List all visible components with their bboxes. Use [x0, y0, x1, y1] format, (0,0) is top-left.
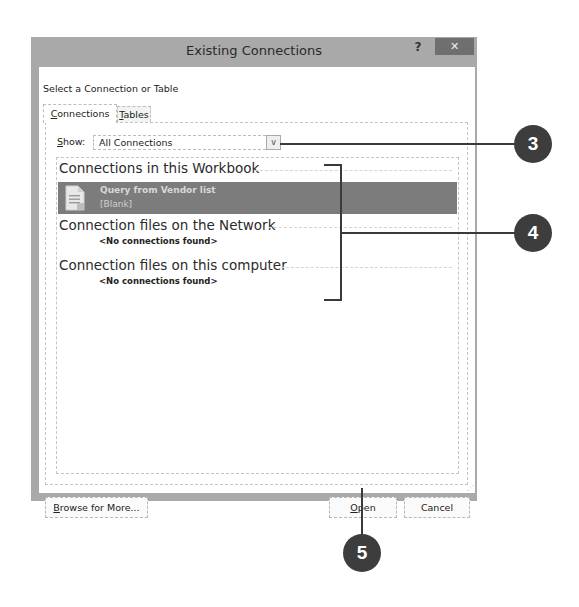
section-label: Select a Connection or Table	[43, 83, 178, 94]
show-dropdown[interactable]: All Connections v	[93, 135, 281, 150]
title-bar[interactable]: Existing Connections ? ✕	[31, 37, 477, 67]
callout-5-leader	[361, 488, 363, 536]
callout-4-leader	[341, 232, 515, 234]
empty-computer-note: <No connections found>	[99, 276, 218, 286]
tab-connections[interactable]: Connections	[43, 104, 117, 123]
tab-label: onnections	[57, 108, 109, 119]
close-button[interactable]: ✕	[435, 38, 474, 55]
group-header-computer: Connection files on this computer	[59, 257, 287, 273]
group-divider	[281, 267, 452, 268]
open-button[interactable]: Open	[329, 497, 397, 518]
connection-name: Query from Vendor list	[100, 185, 216, 195]
list-item[interactable]: Query from Vendor list [Blank]	[58, 182, 457, 214]
show-dropdown-value: All Connections	[99, 137, 173, 148]
bracket-bottom	[324, 299, 342, 301]
group-header-workbook: Connections in this Workbook	[59, 160, 259, 176]
callout-5: 5	[343, 534, 381, 572]
callout-4: 4	[514, 214, 552, 252]
dialog-client-area: Select a Connection or Table Connections…	[39, 67, 475, 493]
group-divider	[255, 170, 452, 171]
chevron-down-icon[interactable]: v	[266, 135, 281, 150]
group-header-network: Connection files on the Network	[59, 217, 275, 233]
existing-connections-dialog: Existing Connections ? ✕ Select a Connec…	[31, 37, 477, 501]
callout-3: 3	[514, 125, 552, 163]
tab-label: ables	[123, 109, 148, 120]
empty-network-note: <No connections found>	[99, 236, 218, 246]
show-label: Show:	[57, 136, 85, 147]
tab-tables[interactable]: Tables	[117, 106, 151, 122]
callout-3-leader	[280, 143, 515, 145]
group-divider	[269, 227, 452, 228]
connections-list[interactable]: Connections in this Workbook Query from …	[56, 157, 459, 474]
connection-description: [Blank]	[100, 199, 132, 209]
close-icon: ✕	[450, 40, 459, 53]
help-button[interactable]: ?	[408, 39, 428, 55]
resize-grip-icon[interactable]: ⋰	[467, 484, 474, 492]
cancel-button[interactable]: Cancel	[404, 497, 470, 518]
document-icon	[64, 185, 86, 211]
browse-for-more-button[interactable]: Browse for More...	[45, 497, 148, 518]
connections-tab-panel: Show: All Connections v Connections in t…	[45, 122, 468, 485]
